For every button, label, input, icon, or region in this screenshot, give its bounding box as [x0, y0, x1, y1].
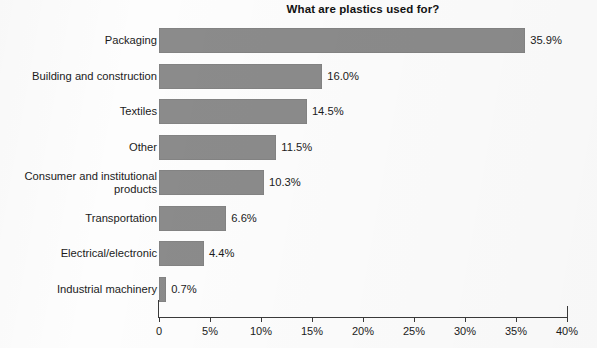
- bar-value-label: 4.4%: [209, 247, 235, 260]
- x-axis-tick-label: 10%: [250, 325, 272, 337]
- x-axis-tick-label: 35%: [505, 325, 527, 337]
- x-axis-tick: [414, 317, 415, 322]
- x-axis-tick-label: 5%: [202, 325, 218, 337]
- bar[interactable]: [159, 135, 276, 160]
- bar[interactable]: [159, 277, 166, 302]
- plot-area: Packaging35.9%Building and construction1…: [0, 0, 597, 348]
- x-axis-tick-label: 0: [156, 325, 162, 337]
- x-axis-tick-label: 30%: [454, 325, 476, 337]
- x-axis-tick-label: 40%: [556, 325, 578, 337]
- bar-value-label: 35.9%: [530, 34, 562, 47]
- bar[interactable]: [159, 28, 525, 53]
- x-axis-tick: [567, 317, 568, 322]
- x-axis-tick: [363, 317, 364, 322]
- category-label: Other: [5, 141, 157, 154]
- x-axis-tick: [516, 317, 517, 322]
- bar[interactable]: [159, 241, 204, 266]
- category-label: Textiles: [5, 105, 157, 118]
- bar-row: Packaging35.9%: [0, 28, 597, 63]
- x-axis-tick-label: 25%: [403, 325, 425, 337]
- category-label: Consumer and institutional products: [5, 170, 157, 196]
- bar[interactable]: [159, 170, 264, 195]
- category-label: Packaging: [5, 34, 157, 47]
- category-label: Industrial machinery: [5, 283, 157, 296]
- bar-row: Consumer and institutional products10.3%: [0, 170, 597, 205]
- bar-row: Textiles14.5%: [0, 99, 597, 134]
- bar[interactable]: [159, 99, 307, 124]
- chart-page: What are plastics used for? Packaging35.…: [0, 0, 597, 348]
- bar-value-label: 10.3%: [269, 176, 301, 189]
- y-axis-line: [158, 300, 159, 318]
- bar-row: Other11.5%: [0, 135, 597, 170]
- bar-row: Industrial machinery0.7%: [0, 277, 597, 312]
- x-axis-tick: [210, 317, 211, 322]
- bar-row: Electrical/electronic4.4%: [0, 241, 597, 276]
- x-axis-tick: [261, 317, 262, 322]
- category-label: Electrical/electronic: [5, 247, 157, 260]
- x-axis-tick-label: 15%: [301, 325, 323, 337]
- x-axis-tick: [312, 317, 313, 322]
- bar-row: Transportation6.6%: [0, 206, 597, 241]
- bar-row: Building and construction16.0%: [0, 64, 597, 99]
- x-axis-tick-label: 20%: [352, 325, 374, 337]
- x-axis-tick: [465, 317, 466, 322]
- bar-value-label: 0.7%: [171, 283, 197, 296]
- category-label: Building and construction: [5, 70, 157, 83]
- bar-value-label: 16.0%: [327, 70, 359, 83]
- bar[interactable]: [159, 64, 322, 89]
- x-axis-tick: [159, 317, 160, 322]
- bar-value-label: 14.5%: [312, 105, 344, 118]
- category-label: Transportation: [5, 212, 157, 225]
- bar-value-label: 11.5%: [281, 141, 312, 154]
- bar[interactable]: [159, 206, 226, 231]
- bar-value-label: 6.6%: [231, 212, 257, 225]
